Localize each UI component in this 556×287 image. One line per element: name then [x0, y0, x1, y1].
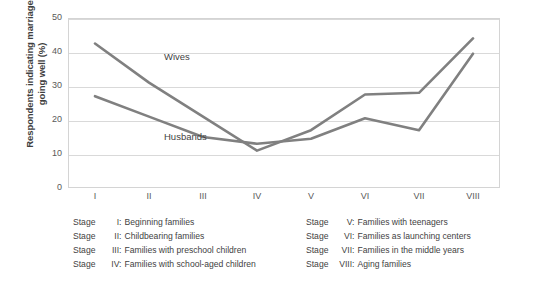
x-axis-tick-label: V [291, 191, 331, 201]
legend-item: StageVI:Families as launching centers [306, 229, 546, 243]
legend-item: StageVIII:Aging families [306, 257, 546, 271]
legend-stage-numeral: IV: [95, 257, 121, 271]
legend-stage-numeral: V: [328, 215, 354, 229]
legend-stage-description: Families with school-aged children [124, 257, 255, 271]
legend-stage-word: Stage [73, 257, 95, 271]
chart-figure: Respondents indicating marriage going we… [0, 0, 556, 287]
legend-stage-numeral: I: [95, 215, 121, 229]
legend-stage-word: Stage [306, 257, 328, 271]
line-series-husbands [95, 54, 473, 144]
legend-stage-word: Stage [73, 243, 95, 257]
legend-item: StageIII:Families with preschool childre… [73, 243, 298, 257]
legend-stage-description: Families in the middle years [357, 243, 464, 257]
legend-stage-word: Stage [73, 215, 95, 229]
line-series-wives [95, 38, 473, 150]
x-axis-tick-label: III [183, 191, 223, 201]
legend-item: StageII:Childbearing families [73, 229, 298, 243]
legend-stage-description: Aging families [357, 257, 411, 271]
y-axis-tick-label: 30 [4, 80, 62, 90]
legend-stage-description: Families with teenagers [357, 215, 447, 229]
x-axis-tick-label: VIII [453, 191, 493, 201]
x-axis-tick-label: II [129, 191, 169, 201]
legend-stage-word: Stage [306, 215, 328, 229]
legend-stage-numeral: VI: [328, 229, 354, 243]
legend-stage-numeral: III: [95, 243, 121, 257]
x-axis-tick-label: I [75, 191, 115, 201]
series-layer [68, 18, 500, 188]
legend-stage-word: Stage [306, 229, 328, 243]
legend-stage-description: Families as launching centers [357, 229, 470, 243]
y-axis-tick-label: 0 [4, 182, 62, 192]
legend-item: StageI:Beginning families [73, 215, 298, 229]
series-label-wives: Wives [164, 51, 190, 62]
legend-column-right: StageV:Families with teenagersStageVI:Fa… [306, 215, 546, 283]
legend-stage-description: Childbearing families [124, 229, 204, 243]
legend-stage-numeral: II: [95, 229, 121, 243]
legend-item: StageV:Families with teenagers [306, 215, 546, 229]
x-axis-tick-label: VI [345, 191, 385, 201]
legend-item: StageIV:Families with school-aged childr… [73, 257, 298, 271]
series-label-husbands: Husbands [164, 131, 207, 142]
y-axis-tick-label: 40 [4, 46, 62, 56]
legend-stage-description: Families with preschool children [124, 243, 246, 257]
x-axis-tick-label: VII [399, 191, 439, 201]
legend-column-left: StageI:Beginning familiesStageII:Childbe… [73, 215, 298, 283]
legend-stage-numeral: VII: [328, 243, 354, 257]
legend: StageI:Beginning familiesStageII:Childbe… [0, 215, 556, 283]
y-axis-tick-label: 20 [4, 114, 62, 124]
legend-item: StageVII:Families in the middle years [306, 243, 546, 257]
legend-stage-numeral: VIII: [328, 257, 354, 271]
y-axis-tick-labels: 01020304050 [0, 18, 62, 188]
x-axis-tick-label: IV [237, 191, 277, 201]
legend-stage-word: Stage [73, 229, 95, 243]
y-axis-tick-label: 50 [4, 12, 62, 22]
x-axis-tick-labels: IIIIIIIVVVIVIIVIII [68, 191, 500, 207]
legend-stage-word: Stage [306, 243, 328, 257]
y-axis-tick-label: 10 [4, 148, 62, 158]
legend-stage-description: Beginning families [124, 215, 194, 229]
